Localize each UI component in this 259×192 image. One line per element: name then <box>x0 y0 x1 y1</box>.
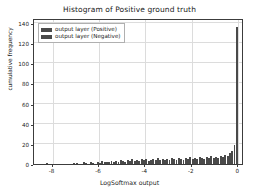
x-tick-label: -6 <box>88 168 108 174</box>
histogram-bar <box>236 27 238 164</box>
y-tick-label: 140 <box>13 21 29 27</box>
legend-label-negative: output layer (Negative) <box>55 33 121 40</box>
chart-figure: Histogram of Positive ground truth outpu… <box>0 0 259 192</box>
y-tick-label: 120 <box>13 41 29 47</box>
legend-item-positive: output layer (Positive) <box>41 26 121 33</box>
legend-swatch-positive <box>41 28 52 32</box>
x-tick-label: -2 <box>181 168 201 174</box>
x-tick-label: -8 <box>42 168 62 174</box>
x-tick-mark <box>98 165 99 167</box>
chart-legend: output layer (Positive) output layer (Ne… <box>38 23 125 43</box>
x-tick-mark <box>52 165 53 167</box>
y-axis-label: cumulative frequency <box>7 21 13 97</box>
chart-title: Histogram of Positive ground truth <box>0 5 259 14</box>
histogram-bar <box>76 163 78 164</box>
x-axis-label: LogSoftmax output <box>0 179 259 186</box>
y-tick-mark <box>31 145 33 146</box>
x-tick-mark <box>191 165 192 167</box>
histogram-bar <box>92 163 94 164</box>
y-tick-label: 20 <box>13 142 29 148</box>
x-tick-label: -4 <box>134 168 154 174</box>
legend-item-negative: output layer (Negative) <box>41 33 121 40</box>
y-tick-label: 0 <box>13 162 29 168</box>
y-tick-label: 80 <box>13 81 29 87</box>
y-tick-mark <box>31 24 33 25</box>
y-tick-label: 60 <box>13 102 29 108</box>
y-tick-mark <box>31 105 33 106</box>
y-tick-mark <box>31 44 33 45</box>
y-tick-mark <box>31 64 33 65</box>
legend-label-positive: output layer (Positive) <box>55 26 117 33</box>
y-tick-label: 100 <box>13 61 29 67</box>
x-tick-mark <box>144 165 145 167</box>
x-tick-mark <box>237 165 238 167</box>
x-tick-label: 0 <box>227 168 247 174</box>
legend-swatch-negative <box>41 35 52 39</box>
plot-area: output layer (Positive) output layer (Ne… <box>33 19 243 165</box>
y-tick-mark <box>31 125 33 126</box>
y-tick-mark <box>31 84 33 85</box>
y-tick-label: 40 <box>13 122 29 128</box>
y-tick-mark <box>31 165 33 166</box>
histogram-bar <box>85 163 87 164</box>
histogram-bar <box>46 163 48 164</box>
